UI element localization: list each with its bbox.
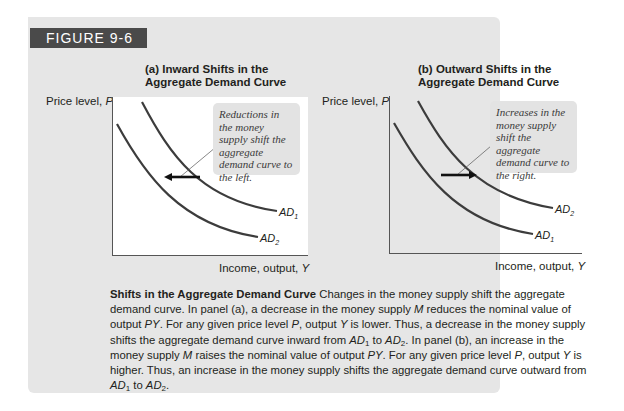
panel-a-ad1-label: AD1	[278, 206, 298, 220]
panel-b-ad1-label: AD1	[534, 229, 554, 243]
panel-b-ad2-label: AD2	[554, 203, 574, 217]
panel-b-y-axis-label: Price level, P	[322, 95, 389, 107]
arrow-right-icon	[469, 171, 477, 179]
y-axis-text: Price level,	[322, 95, 381, 107]
panel-b-title-line1: (b) Outward Shifts in the	[418, 63, 559, 76]
x-axis-text: Income, output,	[495, 260, 577, 272]
panel-b-x-axis-label: Income, output, Y	[495, 260, 585, 272]
panel-a-callout: Reductions in the money supply shift the…	[213, 103, 300, 175]
arrow-left-icon	[164, 173, 172, 181]
panel-a-ad2-label: AD2	[259, 232, 279, 246]
panel-b-title: (b) Outward Shifts in the Aggregate Dema…	[418, 63, 559, 89]
y-axis-var: P	[381, 95, 389, 107]
figure-caption: Shifts in the Aggregate Demand Curve Cha…	[110, 287, 590, 393]
caption-title: Shifts in the Aggregate Demand Curve	[110, 288, 316, 300]
x-axis-text: Income, output,	[219, 262, 301, 274]
panel-a-leader-line	[180, 147, 216, 177]
x-axis-var: Y	[301, 262, 309, 274]
panel-a-x-axis-label: Income, output, Y	[219, 262, 309, 274]
panel-b-leader-line	[457, 146, 491, 175]
panel-b-title-line2: Aggregate Demand Curve	[418, 76, 559, 89]
x-axis-var: Y	[577, 260, 585, 272]
panel-b-callout: Increases in the money supply shift the …	[490, 101, 577, 173]
